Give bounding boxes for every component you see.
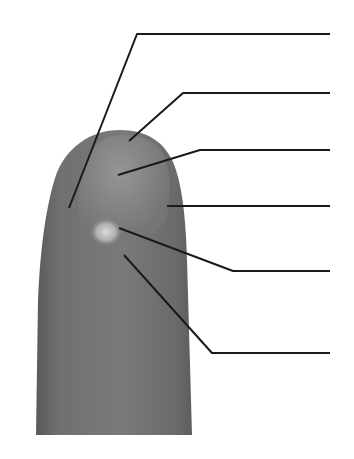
finger-diagram xyxy=(0,0,354,459)
lunula xyxy=(90,218,122,246)
leader-line-2 xyxy=(129,93,330,141)
